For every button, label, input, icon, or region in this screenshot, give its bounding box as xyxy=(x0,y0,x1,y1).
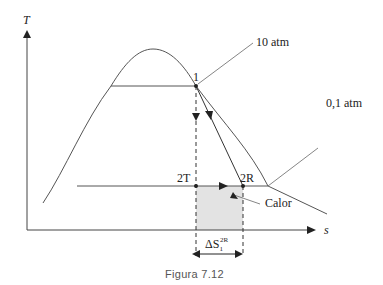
figure-caption: Figura 7.12 xyxy=(165,268,224,280)
heat-area xyxy=(196,186,243,230)
saturation-dome xyxy=(43,49,196,203)
s-axis-arrow-icon xyxy=(307,226,316,234)
label-point-2r: 2R xyxy=(240,171,254,185)
leader-0-1-atm xyxy=(268,148,318,186)
label-10-atm: 10 atm xyxy=(256,35,290,49)
real-expansion-line xyxy=(196,86,243,186)
label-point-2t: 2T xyxy=(177,171,191,185)
label-calor: Calor xyxy=(265,196,292,210)
ts-diagram: T s 10 atm 0,1 atm 1 2T 2R Calor ΔS12R F… xyxy=(0,0,383,285)
t-axis-arrow-icon xyxy=(23,30,31,38)
leader-10-atm xyxy=(198,43,253,84)
t-axis-label: T xyxy=(23,13,31,27)
label-0-1-atm: 0,1 atm xyxy=(326,96,363,110)
point-2t xyxy=(194,184,198,188)
point-1 xyxy=(194,84,198,88)
label-delta-s: ΔS12R xyxy=(205,236,228,253)
isentropic-arrow-icon xyxy=(192,113,200,121)
s-axis-label: s xyxy=(324,223,329,237)
label-point-1: 1 xyxy=(193,70,199,84)
